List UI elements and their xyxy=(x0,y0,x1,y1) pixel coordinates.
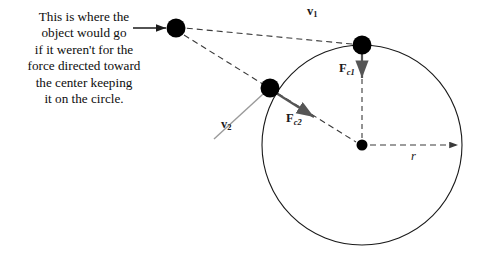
radius-label: r xyxy=(411,150,416,163)
caption-text-block: This is where the object would go if it … xyxy=(8,9,160,107)
velocity1-tangent-dashed-line xyxy=(185,28,362,45)
caption-line-3: if it weren't for the xyxy=(8,42,160,58)
velocity2-label: v2 xyxy=(221,118,232,132)
radius-symbol: r xyxy=(411,149,416,163)
force2-subscript: c2 xyxy=(294,117,302,127)
force1-symbol: F xyxy=(339,61,347,75)
velocity1-label: v1 xyxy=(307,5,318,19)
velocity1-subscript: 1 xyxy=(313,9,317,19)
centripetal-force2-label: Fc2 xyxy=(286,112,302,126)
caption-line-6: it on the circle. xyxy=(8,91,160,107)
circle-center-dot xyxy=(357,140,368,151)
force1-subscript: c1 xyxy=(347,67,355,77)
object-ball-projected-position xyxy=(167,19,186,38)
centripetal-force1-label: Fc1 xyxy=(339,62,355,76)
velocity2-subscript: 2 xyxy=(227,122,231,132)
caption-line-2: object would go xyxy=(8,25,160,41)
caption-line-4: force directed toward xyxy=(8,58,160,74)
caption-line-5: the center keeping xyxy=(8,75,160,91)
caption-line-1: This is where the xyxy=(8,9,160,25)
object-ball-position1 xyxy=(353,36,372,55)
physics-diagram-circular-motion: This is where the object would go if it … xyxy=(0,0,491,253)
force2-symbol: F xyxy=(286,111,294,125)
object-ball-position2 xyxy=(261,79,280,98)
